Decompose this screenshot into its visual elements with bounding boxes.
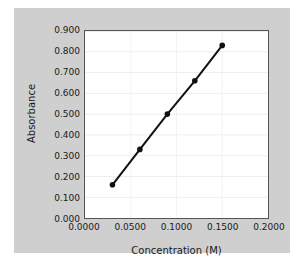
figure-panel: 0.900 0.800 0.700 0.600 0.500 0.400 0.30… — [14, 8, 290, 253]
y-axis-tick-labels: 0.900 0.800 0.700 0.600 0.500 0.400 0.30… — [32, 30, 80, 219]
plot-area — [84, 30, 269, 219]
y-tick-label: 0.500 — [34, 109, 80, 119]
data-point — [110, 182, 116, 188]
y-tick-label: 0.400 — [34, 130, 80, 140]
data-point — [192, 78, 198, 84]
data-point — [219, 43, 225, 49]
x-axis-tick-labels: 0.0000 0.0500 0.1000 0.1500 0.2000 — [84, 222, 269, 236]
data-point — [137, 147, 143, 153]
y-tick-label: 0.700 — [34, 67, 80, 77]
y-tick-label: 0.800 — [34, 46, 80, 56]
y-tick-label: 0.600 — [34, 88, 80, 98]
y-axis-title: Absorbance — [26, 59, 37, 169]
chart-figure: 0.900 0.800 0.700 0.600 0.500 0.400 0.30… — [0, 0, 301, 263]
vertical-gridlines — [131, 31, 223, 218]
plot-svg — [85, 31, 268, 218]
y-tick-label: 0.900 — [34, 25, 80, 35]
y-tick-label: 0.100 — [34, 193, 80, 203]
x-axis-title: Concentration (M) — [84, 245, 269, 256]
y-tick-label: 0.200 — [34, 172, 80, 182]
data-point — [165, 111, 171, 117]
y-tick-label: 0.300 — [34, 151, 80, 161]
x-tick-label: 0.2000 — [239, 222, 299, 232]
